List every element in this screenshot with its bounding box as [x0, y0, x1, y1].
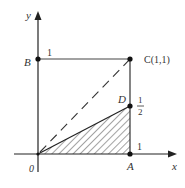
- tick-label-a: 1: [137, 141, 142, 152]
- origin-label: 0: [29, 163, 34, 174]
- point-b: [35, 56, 40, 61]
- label-c: C(1,1): [144, 54, 170, 66]
- shaded-region: [38, 100, 133, 156]
- y-axis: [35, 11, 42, 172]
- x-axis-arrow-icon: [168, 151, 177, 158]
- x-axis-label: x: [171, 160, 177, 172]
- d-value-numerator: 1: [138, 95, 143, 105]
- point-origin: [36, 152, 39, 155]
- d-value-denominator: 2: [138, 107, 143, 117]
- tick-label-b: 1: [47, 47, 52, 58]
- label-a: A: [126, 160, 134, 172]
- label-d: D: [117, 93, 126, 105]
- diagram-canvas: y x 0 B 1 C(1,1) D 1 2 A 1: [0, 0, 185, 188]
- label-b: B: [24, 56, 31, 68]
- point-c: [127, 56, 132, 61]
- point-a: [127, 151, 132, 156]
- y-axis-arrow-icon: [35, 11, 42, 20]
- point-d: [127, 103, 132, 108]
- y-axis-label: y: [25, 9, 31, 21]
